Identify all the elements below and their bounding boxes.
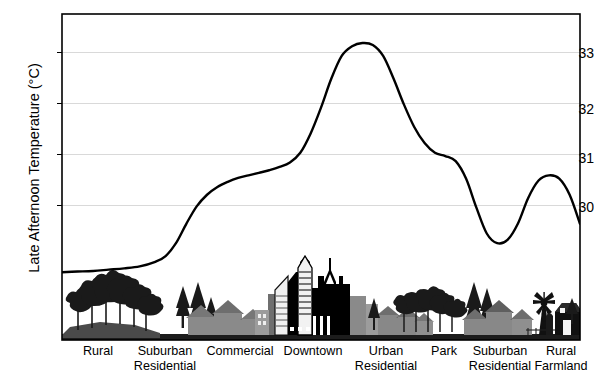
x-tick-label-commercial: Commercial (203, 344, 277, 359)
x-tick-label-rural: Rural (70, 344, 126, 359)
plot-area (0, 0, 594, 386)
y-tick-label-32: 32 (560, 101, 594, 117)
x-tick-label-downtown: Downtown (277, 344, 349, 359)
y-tick-label-30: 30 (560, 199, 594, 215)
urban-heat-island-figure: Late Afternoon Temperature (°C) 30 31 32… (0, 0, 594, 386)
y-tick-label-33: 33 (560, 45, 594, 61)
y-tick-label-31: 31 (560, 150, 594, 166)
x-tick-label-urban-residential: Urban Residential (352, 344, 420, 373)
y-axis-title: Late Afternoon Temperature (°C) (26, 38, 42, 298)
x-tick-label-rural-farmland: Rural Farmland (530, 344, 592, 373)
x-tick-label-park: Park (420, 344, 468, 359)
x-tick-label-suburban-residential-2: Suburban Residential (463, 344, 537, 373)
x-tick-label-suburban-residential: Suburban Residential (128, 344, 202, 373)
